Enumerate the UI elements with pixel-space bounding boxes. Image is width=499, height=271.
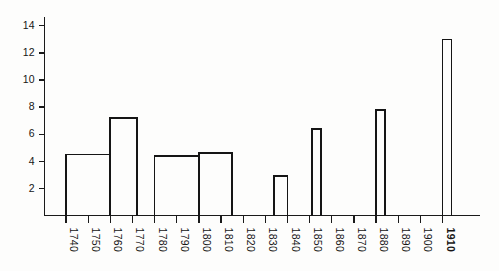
bar bbox=[443, 39, 452, 215]
bars-group bbox=[66, 39, 451, 215]
bar bbox=[199, 153, 232, 215]
bar bbox=[155, 156, 199, 216]
y-tick-label: 6 bbox=[29, 127, 35, 139]
x-tick-label: 1880 bbox=[378, 228, 390, 253]
x-tick-label: 1820 bbox=[245, 228, 257, 253]
x-tick-label: 1750 bbox=[90, 228, 102, 253]
x-tick-label: 1830 bbox=[267, 228, 279, 253]
x-axis-group bbox=[45, 216, 481, 223]
bar bbox=[376, 110, 385, 216]
y-tick-label: 14 bbox=[23, 19, 35, 31]
y-tick-label: 2 bbox=[29, 182, 35, 194]
y-tick-label: 8 bbox=[29, 100, 35, 112]
x-tick-labels-group: 1740175017601770178017901800181018201830… bbox=[68, 228, 457, 253]
y-axis-group: 2468101214 bbox=[23, 17, 45, 216]
x-tick-label: 1850 bbox=[312, 228, 324, 253]
x-tick-group bbox=[66, 216, 443, 223]
y-tick-group: 2468101214 bbox=[23, 19, 45, 194]
histogram-chart: 2468101214 17401750176017701780179018001… bbox=[0, 0, 499, 271]
x-tick-label: 1740 bbox=[68, 228, 80, 253]
x-tick-label: 1860 bbox=[334, 228, 346, 253]
x-tick-label: 1840 bbox=[290, 228, 302, 253]
x-tick-label: 1900 bbox=[422, 228, 434, 253]
x-tick-label: 1770 bbox=[134, 228, 146, 253]
bar bbox=[66, 155, 110, 216]
x-tick-label: 1870 bbox=[356, 228, 368, 253]
y-tick-label: 10 bbox=[23, 73, 35, 85]
bar bbox=[312, 129, 321, 216]
x-tick-label: 1760 bbox=[112, 228, 124, 253]
chart-container: 2468101214 17401750176017701780179018001… bbox=[0, 0, 499, 271]
x-tick-label: 1780 bbox=[157, 228, 169, 253]
x-tick-label: 1810 bbox=[223, 228, 235, 253]
x-tick-label: 1790 bbox=[179, 228, 191, 253]
x-tick-label: 1890 bbox=[400, 228, 412, 253]
x-tick-label: 1800 bbox=[201, 228, 213, 253]
bar bbox=[110, 118, 137, 216]
x-tick-label: 1910 bbox=[445, 228, 457, 253]
bar bbox=[274, 176, 287, 215]
y-tick-label: 12 bbox=[23, 46, 35, 58]
y-tick-label: 4 bbox=[29, 155, 35, 167]
